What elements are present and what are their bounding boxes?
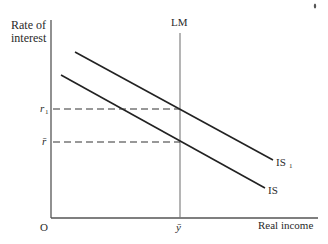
is-lm-diagram: Rate of interest LM r 1 r̄ IS 1 IS O ȳ R… [0,0,328,244]
lm-label: LM [171,16,188,28]
is1-subscript: 1 [289,162,293,170]
is-label: IS [268,184,278,196]
is-curve [61,75,265,188]
is1-label: IS [276,156,286,168]
rbar-label: r̄ [42,135,47,147]
r1-subscript: 1 [45,108,49,116]
print-speck [314,4,316,9]
is1-curve [75,52,273,160]
y-axis-label-line1: Rate of [11,18,46,32]
x-axis-label: Real income [258,219,313,231]
origin-label: O [40,221,48,233]
ybar-label: ȳ [175,221,182,233]
y-axis-label-line2: interest [11,31,47,45]
